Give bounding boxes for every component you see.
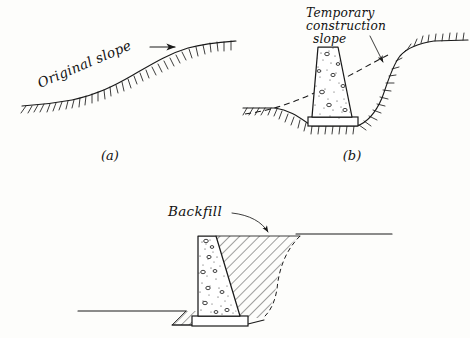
panel-caption-a: (a) xyxy=(101,148,119,163)
construction-sequence-figure: Original slope (a) xyxy=(0,0,470,338)
temporary-slope-label-line2: construction xyxy=(306,19,386,33)
temporary-slope-label-line1: Temporary xyxy=(306,6,376,20)
wall-footing-b xyxy=(308,117,358,126)
backfill-label: Backfill xyxy=(167,203,222,219)
wall-footing-c xyxy=(192,316,248,326)
figure-root: Original slope (a) xyxy=(0,0,470,338)
panel-caption-b: (b) xyxy=(343,148,361,163)
temporary-slope-label-line3: slope xyxy=(313,32,347,46)
